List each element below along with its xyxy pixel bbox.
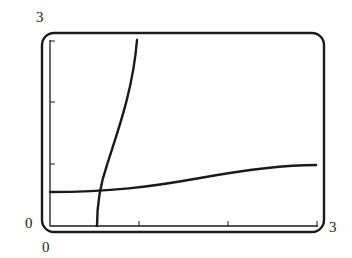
plot-area: [0, 0, 352, 258]
y-ticks: [50, 41, 55, 164]
x-max-label: 3: [329, 220, 337, 235]
steep-curve: [97, 40, 137, 226]
flat-curve: [50, 165, 316, 192]
y-max-label: 3: [36, 10, 44, 25]
x-min-label: 0: [42, 240, 50, 255]
y-min-label: 0: [25, 216, 33, 231]
window-frame: [42, 33, 324, 232]
x-ticks: [139, 221, 317, 226]
